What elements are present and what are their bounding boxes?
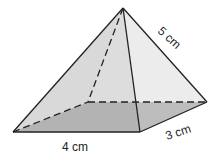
label-slant-edge: 5 cm <box>155 24 184 52</box>
label-base-length: 4 cm <box>62 140 88 154</box>
pyramid-diagram: 4 cm 3 cm 5 cm <box>0 0 219 161</box>
label-base-width: 3 cm <box>164 121 193 142</box>
pyramid-figure: 4 cm 3 cm 5 cm <box>0 0 219 161</box>
